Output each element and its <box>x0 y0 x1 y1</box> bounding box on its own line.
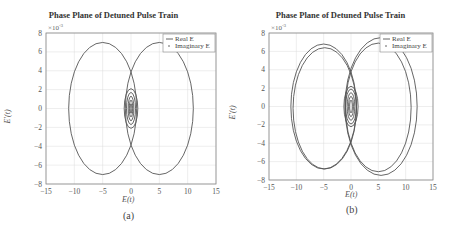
svg-text:−5: −5 <box>320 183 328 192</box>
svg-text:15: 15 <box>212 187 220 196</box>
svg-text:−4: −4 <box>34 142 42 151</box>
svg-text:−2: −2 <box>34 123 42 132</box>
svg-text:5: 5 <box>376 183 380 192</box>
svg-text:−4: −4 <box>257 139 265 148</box>
y-axis-label: E'(t) <box>228 105 237 119</box>
plot-a: −15−10−5051015−8−6−4−202468×10-3Real EIm… <box>0 0 227 235</box>
svg-text:5: 5 <box>157 187 161 196</box>
svg-text:0: 0 <box>38 104 42 113</box>
plot-b: −15−10−5051015−8−6−4−202468×10-3Real EIm… <box>227 0 454 235</box>
svg-text:−2: −2 <box>257 120 265 129</box>
svg-text:4: 4 <box>261 65 265 74</box>
svg-text:2: 2 <box>261 84 265 93</box>
svg-text:×10-3: ×10-3 <box>48 23 64 32</box>
svg-text:6: 6 <box>261 47 265 56</box>
svg-text:8: 8 <box>261 29 265 38</box>
caption: (b) <box>346 204 358 215</box>
svg-text:−10: −10 <box>290 183 302 192</box>
svg-text:4: 4 <box>38 66 42 75</box>
svg-text:15: 15 <box>429 183 437 192</box>
svg-text:−6: −6 <box>257 157 265 166</box>
svg-text:−6: −6 <box>34 161 42 170</box>
y-axis-label: E'(t) <box>3 109 12 123</box>
svg-text:10: 10 <box>402 183 410 192</box>
x-axis-label: E(t) <box>345 190 357 199</box>
svg-text:8: 8 <box>38 29 42 38</box>
svg-text:Imaginary E: Imaginary E <box>392 42 427 50</box>
panel-a: Phase Plane of Detuned Pulse Train −15−1… <box>0 0 227 235</box>
svg-text:−8: −8 <box>34 180 42 189</box>
caption: (a) <box>123 210 134 221</box>
svg-text:×10-3: ×10-3 <box>271 23 287 32</box>
panel-b: Phase Plane of Detuned Pulse Train −15−1… <box>227 0 454 235</box>
svg-text:10: 10 <box>184 187 192 196</box>
svg-text:0: 0 <box>261 102 265 111</box>
svg-text:Imaginary E: Imaginary E <box>175 42 210 50</box>
svg-text:−10: −10 <box>68 187 80 196</box>
svg-text:−5: −5 <box>99 187 107 196</box>
svg-text:−8: −8 <box>257 176 265 185</box>
svg-text:2: 2 <box>38 85 42 94</box>
x-axis-label: E(t) <box>122 195 134 204</box>
svg-text:6: 6 <box>38 47 42 56</box>
